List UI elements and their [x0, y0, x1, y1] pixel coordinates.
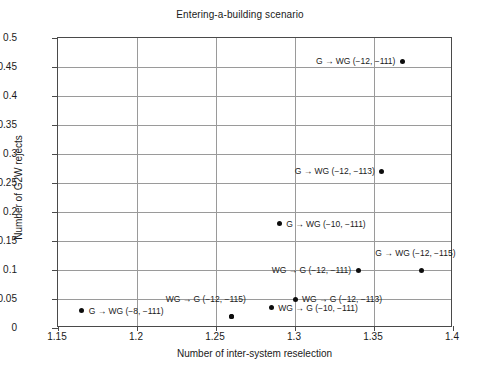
data-point-label: WG → G (−12, −111)	[272, 265, 352, 275]
gridline-horizontal	[58, 154, 451, 155]
data-point[interactable]	[269, 305, 274, 310]
data-point-label: G → WG (−12, −113)	[295, 166, 375, 176]
chart-title: Entering-a-building scenario	[0, 9, 480, 20]
y-axis-tick	[52, 212, 58, 213]
y-axis-tick-label: 0	[0, 322, 17, 333]
data-point[interactable]	[229, 314, 234, 319]
y-axis-tick	[52, 154, 58, 155]
y-axis-tick	[52, 38, 58, 39]
data-point-label: WG → G (−10, −111)	[278, 303, 358, 313]
x-axis-tick-label: 1.15	[47, 331, 66, 342]
y-axis-tick	[52, 241, 58, 242]
y-axis-tick-label: 0.45	[0, 61, 17, 72]
gridline-horizontal	[58, 67, 451, 68]
data-point-label: WG → G (−12, −115)	[166, 294, 246, 304]
y-axis-tick-label: 0.5	[0, 32, 17, 43]
x-axis-tick-label: 1.3	[287, 331, 301, 342]
data-point[interactable]	[356, 268, 361, 273]
y-axis-tick	[52, 299, 58, 300]
y-axis-tick-label: 0.25	[0, 177, 17, 188]
y-axis-tick	[52, 270, 58, 271]
gridline-vertical	[295, 38, 296, 326]
gridline-vertical	[374, 38, 375, 326]
data-point[interactable]	[379, 169, 384, 174]
gridline-horizontal	[58, 183, 451, 184]
data-point-label: G → WG (−12, −111)	[316, 56, 396, 66]
gridline-horizontal	[58, 270, 451, 271]
y-axis-tick	[52, 67, 58, 68]
y-axis-tick-label: 0.1	[0, 264, 17, 275]
gridline-horizontal	[58, 96, 451, 97]
x-axis-title: Number of inter-system reselection	[57, 348, 452, 359]
y-axis-tick	[52, 183, 58, 184]
data-point-label: G → WG (−8, −111)	[89, 306, 164, 316]
y-axis-tick-label: 0.35	[0, 119, 17, 130]
y-axis-tick-label: 0.05	[0, 293, 17, 304]
data-point-label: G → WG (−10, −111)	[286, 219, 366, 229]
gridline-horizontal	[58, 299, 451, 300]
y-axis-tick	[52, 125, 58, 126]
gridline-horizontal	[58, 125, 451, 126]
gridline-vertical	[216, 38, 217, 326]
data-point[interactable]	[79, 308, 84, 313]
gridline-horizontal	[58, 212, 451, 213]
y-axis-tick-label: 0.4	[0, 90, 17, 101]
data-point-label: G → WG (−12, −115)	[375, 248, 455, 258]
data-point[interactable]	[400, 59, 405, 64]
data-point[interactable]	[277, 221, 282, 226]
y-axis-tick-label: 0.2	[0, 206, 17, 217]
y-axis-tick-label: 0.3	[0, 148, 17, 159]
x-axis-tick-label: 1.35	[363, 331, 382, 342]
data-point[interactable]	[419, 268, 424, 273]
x-axis-tick-label: 1.2	[129, 331, 143, 342]
scatter-plot-figure: Entering-a-building scenario Number of G…	[0, 0, 480, 373]
y-axis-tick-label: 0.15	[0, 235, 17, 246]
data-point[interactable]	[293, 297, 298, 302]
gridline-horizontal	[58, 241, 451, 242]
x-axis-tick-label: 1.25	[205, 331, 224, 342]
x-axis-tick-label: 1.4	[445, 331, 459, 342]
gridline-vertical	[137, 38, 138, 326]
plot-area: G → WG (−12, −111)G → WG (−12, −113)G → …	[57, 37, 452, 327]
y-axis-tick	[52, 96, 58, 97]
